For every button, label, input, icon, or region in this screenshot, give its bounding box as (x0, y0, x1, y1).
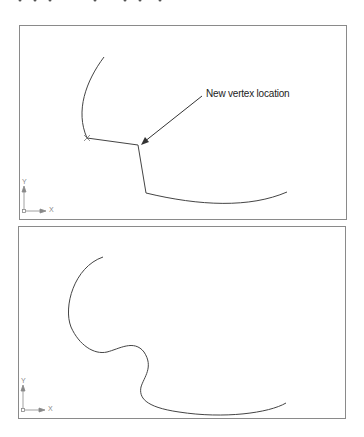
ucs-icon (22, 186, 46, 213)
cropped-text-fragment (0, 0, 364, 6)
annotation-label: New vertex location (206, 88, 289, 99)
drawing-panel-after: Y X (18, 226, 346, 419)
ucs-icon (21, 385, 45, 412)
ucs-x-label: X (48, 405, 53, 412)
ucs-y-label: Y (22, 178, 27, 185)
spline-drawing (19, 227, 345, 418)
ucs-x-label: X (49, 206, 54, 213)
polyline-drawing (20, 26, 346, 219)
drawing-panel-before: New vertex location Y X (19, 25, 347, 220)
ucs-y-label: Y (21, 377, 26, 384)
cropped-caption-text (0, 0, 364, 6)
arrowhead-icon (141, 137, 149, 145)
